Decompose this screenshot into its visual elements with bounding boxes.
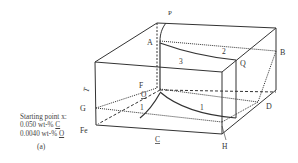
- line-b-d: [258, 51, 276, 102]
- label-fe-origin: Fe: [80, 126, 88, 135]
- label-o: O: [141, 90, 147, 99]
- label-carbon-axis: C: [155, 135, 160, 144]
- line-f-d: [160, 89, 258, 102]
- region-label-1-left: 1: [140, 103, 144, 112]
- carbon-element: C: [55, 121, 60, 129]
- label-g: G: [80, 104, 86, 113]
- right-bottom-edge: [222, 90, 276, 134]
- starting-point-caption: Starting point x: 0.050 wt-% C 0.0040 wt…: [20, 113, 67, 138]
- carbon-value: 0.050 wt-%: [20, 121, 55, 129]
- top-back-edge: [157, 23, 276, 28]
- starting-point-title: Starting point x:: [20, 113, 67, 121]
- curve-o-h: [160, 92, 236, 118]
- label-q: Q: [240, 59, 246, 68]
- label-a: A: [147, 38, 153, 47]
- oxygen-element: O: [59, 130, 64, 138]
- region-label-3: 3: [179, 57, 183, 66]
- region-label-1-right: 1: [200, 103, 204, 112]
- region-label-2: 2: [222, 47, 226, 56]
- line-g-f: [96, 88, 157, 108]
- starting-point-carbon: 0.050 wt-% C: [20, 121, 67, 129]
- label-temperature-axis: T: [82, 86, 92, 92]
- curve-p-a: [160, 23, 166, 41]
- label-f: F: [139, 81, 143, 90]
- label-b: B: [280, 48, 285, 57]
- starting-point-oxygen: 0.0040 wt-% O: [20, 130, 67, 138]
- label-h: H: [222, 142, 228, 151]
- bottom-back-edge-hidden: [160, 90, 276, 92]
- label-d: D: [266, 102, 272, 111]
- front-face: [95, 62, 222, 134]
- oxygen-value: 0.0040 wt-%: [20, 130, 59, 138]
- label-p: P: [168, 9, 172, 17]
- phase-diagram-3d: P A B Q F O G D H T Fe C 3 2 1 1: [0, 0, 298, 163]
- panel-label: (a): [37, 143, 45, 151]
